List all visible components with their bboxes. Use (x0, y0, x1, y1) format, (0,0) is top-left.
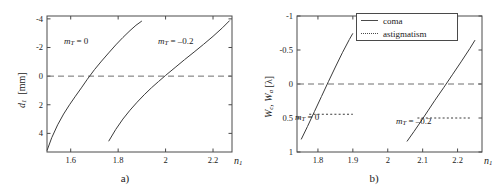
y-tick-label: 4 (39, 128, 44, 138)
y-axis-subscript: 1 (20, 100, 27, 103)
y-axis-unit: [mm] (16, 72, 27, 94)
panel-b-mt-neg-label: mT = –0.2 (396, 116, 432, 126)
y-tick-label: -2 (36, 42, 43, 52)
figure-container: 1.61.822.2420-2-4 d1 [mm] n1 mT = 0 mT =… (0, 0, 499, 193)
panel-b-x-axis-label: n1 (484, 155, 492, 166)
data-curve (301, 33, 353, 139)
mt-value: = –0.2 (406, 116, 431, 126)
mt-value: = 0 (305, 112, 319, 122)
legend-swatch-dotted (361, 33, 378, 34)
x-tick-label: 2.1 (417, 155, 428, 165)
y-axis-symbol-wc: W (263, 110, 274, 118)
x-tick-label: 1.8 (313, 155, 324, 165)
panel-b-caption: b) (249, 172, 499, 184)
legend-swatch-solid (361, 20, 378, 21)
legend-item-astigmatism: astigmatism (357, 27, 457, 40)
panel-a-mt-neg-label: mT = –0.2 (158, 36, 194, 46)
x-axis-subscript: 1 (239, 159, 242, 166)
y-axis-unit: [λ] (263, 76, 274, 88)
legend-label-astigmatism: astigmatism (383, 29, 427, 39)
x-tick-label: 2 (163, 155, 167, 165)
y-axis-symbol: d (16, 103, 27, 108)
y-tick-label: 0.5 (282, 113, 293, 123)
y-tick-label: 0 (289, 79, 293, 89)
panel-a-y-axis-label: d1 [mm] (16, 72, 27, 108)
y-tick-label: -1 (286, 11, 293, 21)
panel-b-mt-zero-label: mT = 0 (295, 112, 319, 122)
data-curve (47, 21, 142, 151)
y-tick-label: -4 (36, 14, 44, 24)
x-tick-label: 2 (386, 155, 390, 165)
y-tick-label: -0.5 (280, 45, 293, 55)
mt-value: = –0.2 (168, 36, 193, 46)
y-tick-label: 2 (39, 100, 43, 110)
x-tick-label: 1.8 (113, 155, 124, 165)
legend-item-coma: coma (357, 14, 457, 27)
panel-b: 1.81.922.12.210.50-0.5-1 Wc, Wa [λ] n1 c… (249, 0, 499, 193)
legend-label-coma: coma (383, 16, 403, 26)
mt-value: = 0 (74, 36, 88, 46)
x-tick-label: 2.2 (208, 155, 219, 165)
x-axis-subscript: 1 (489, 159, 492, 166)
y-tick-label: 1 (289, 147, 293, 157)
x-tick-label: 1.6 (65, 155, 76, 165)
panel-a-mt-zero-label: mT = 0 (64, 36, 88, 46)
panel-b-y-axis-label: Wc, Wa [λ] (263, 76, 274, 118)
panel-a-x-axis-label: n1 (234, 155, 242, 166)
panel-a: 1.61.822.2420-2-4 d1 [mm] n1 mT = 0 mT =… (0, 0, 250, 193)
x-tick-label: 1.9 (348, 155, 359, 165)
y-axis-subscript-a: a (267, 90, 274, 93)
y-tick-label: 0 (39, 71, 43, 81)
panel-a-caption: a) (0, 172, 250, 184)
x-tick-label: 2.2 (452, 155, 463, 165)
y-axis-symbol-wa: W (263, 93, 274, 101)
plot-a-canvas: 1.61.822.2420-2-4 (0, 0, 250, 193)
y-axis-subscript-c: c (267, 107, 274, 110)
panel-b-legend: coma astigmatism (356, 13, 458, 41)
